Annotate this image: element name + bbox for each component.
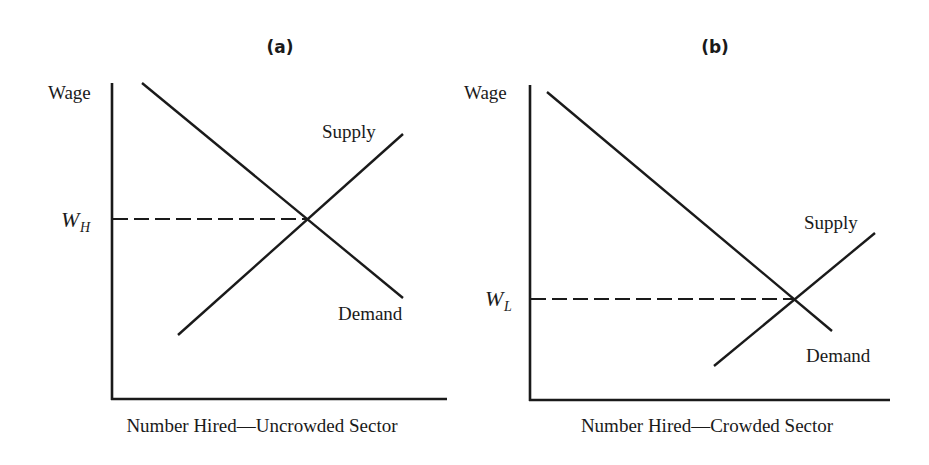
panel-a-demand-label: Demand — [338, 303, 403, 324]
panel-a-y-axis-label: Wage — [48, 82, 91, 103]
svg-text:L: L — [503, 299, 512, 314]
panel-b-wage-level-label: W L — [485, 286, 512, 314]
svg-text:W: W — [61, 207, 81, 232]
panel-b-y-axis-label: Wage — [464, 82, 507, 103]
svg-text:H: H — [79, 220, 91, 235]
labor-market-figure: (a) Wage W H Supply Demand Number Hired—… — [0, 0, 929, 465]
svg-text:W: W — [485, 286, 505, 311]
panel-b-title: (b) — [701, 37, 729, 57]
panel-a-supply-label: Supply — [322, 121, 376, 142]
panel-b-demand-label: Demand — [806, 345, 871, 366]
panel-b-supply-label: Supply — [804, 212, 858, 233]
panel-b-x-axis-label: Number Hired—Crowded Sector — [581, 415, 834, 436]
panel-a: (a) Wage W H Supply Demand Number Hired—… — [48, 37, 447, 436]
panel-a-wage-level-label: W H — [61, 207, 91, 235]
panel-a-demand-curve — [142, 83, 403, 298]
panel-a-x-axis-label: Number Hired—Uncrowded Sector — [126, 415, 398, 436]
panel-b-demand-curve — [547, 92, 832, 331]
panel-b: (b) Wage W L Supply Demand Number Hired—… — [464, 37, 890, 436]
panel-a-title: (a) — [266, 37, 293, 57]
